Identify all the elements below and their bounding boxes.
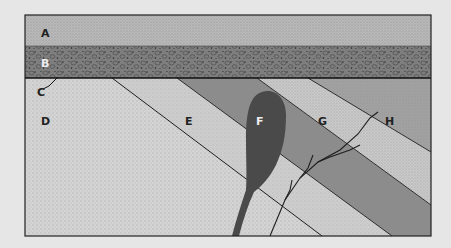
label-e: E <box>185 115 193 128</box>
label-g: G <box>318 115 327 128</box>
label-a: A <box>41 27 50 40</box>
label-f: F <box>256 115 264 128</box>
label-h: H <box>385 115 394 128</box>
label-c: C <box>37 86 45 99</box>
label-b: B <box>41 57 49 70</box>
layer-b-conglomerate <box>25 46 431 78</box>
layer-a <box>25 15 431 46</box>
geologic-cross-section: A B C D E F G H <box>0 0 451 248</box>
label-d: D <box>41 115 50 128</box>
